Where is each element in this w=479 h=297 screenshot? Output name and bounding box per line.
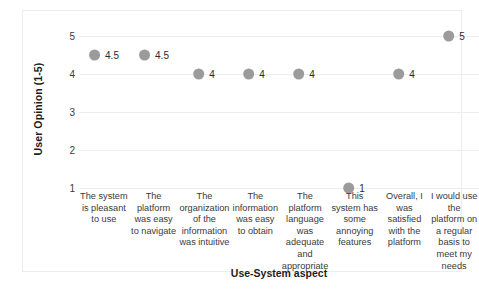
- y-axis-tick-2: 2: [53, 145, 75, 156]
- data-point-marker[interactable]: [89, 50, 100, 61]
- data-point-label: 4: [409, 69, 415, 80]
- gridline-5: [79, 36, 479, 37]
- x-axis-category-2: The platform was easy to navigate: [129, 191, 179, 263]
- data-point-marker[interactable]: [393, 69, 404, 80]
- x-axis-category-4: The information was easy to obtain: [230, 191, 280, 263]
- x-axis-category-8: I would use the platform on a regular ba…: [429, 191, 479, 263]
- data-point-label: 4: [259, 69, 265, 80]
- data-point-label: 4.5: [105, 50, 119, 61]
- gridline-3: [79, 112, 479, 113]
- data-point-label: 4.5: [155, 50, 169, 61]
- x-axis-category-6: This system has some annoying features: [330, 191, 380, 263]
- y-axis-tick-1: 1: [53, 183, 75, 194]
- data-point[interactable]: 4.5: [89, 50, 119, 61]
- y-axis-tick-4: 4: [53, 69, 75, 80]
- plot-area: 4.54.5444145: [79, 36, 479, 188]
- x-axis-title: Use-System aspect: [79, 267, 479, 279]
- data-point[interactable]: 4: [293, 69, 315, 80]
- data-point-label: 4: [209, 69, 215, 80]
- data-point-marker[interactable]: [243, 69, 254, 80]
- x-axis-category-1: The system is pleasant to use: [79, 191, 129, 263]
- y-axis-tick-3: 3: [53, 107, 75, 118]
- data-point-marker[interactable]: [293, 69, 304, 80]
- gridline-2: [79, 150, 479, 151]
- gridline-1: [79, 188, 479, 189]
- x-axis-category-3: The organization of the information was …: [178, 191, 230, 263]
- data-point[interactable]: 4: [193, 69, 215, 80]
- data-point[interactable]: 4.5: [139, 50, 169, 61]
- x-axis-category-5: The platform language was adequate and a…: [280, 191, 330, 263]
- x-axis-category-labels: The system is pleasant to useThe platfor…: [79, 191, 479, 263]
- data-point-marker[interactable]: [139, 50, 150, 61]
- data-point-marker[interactable]: [443, 31, 454, 42]
- y-axis-title: User Opinion (1-5): [27, 29, 49, 189]
- chart-container: User Opinion (1-5) 12345 4.54.5444145 Th…: [22, 10, 462, 272]
- x-axis-category-7: Overall, I was satisfied with the platfo…: [380, 191, 430, 263]
- data-point-marker[interactable]: [193, 69, 204, 80]
- y-axis-title-text: User Opinion (1-5): [32, 63, 44, 156]
- data-point[interactable]: 4: [243, 69, 265, 80]
- data-point-label: 4: [309, 69, 315, 80]
- gridline-4: [79, 74, 479, 75]
- data-point-label: 5: [459, 31, 465, 42]
- data-point[interactable]: 4: [393, 69, 415, 80]
- y-axis-tick-5: 5: [53, 31, 75, 42]
- data-point[interactable]: 5: [443, 31, 465, 42]
